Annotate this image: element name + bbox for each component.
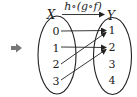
mapping-arrows (61, 31, 106, 81)
domain-set-label: X (46, 8, 56, 22)
mapping-arrow-2-to-1 (61, 33, 106, 65)
indicator-arrow-icon (11, 44, 22, 53)
codomain-element: 1 (109, 24, 116, 37)
domain-element: 0 (53, 25, 60, 38)
codomain-element: 3 (109, 58, 116, 71)
domain-element: 3 (53, 75, 60, 88)
mapping-arrow-1-to-2 (61, 47, 106, 48)
mapping-arrow-3-to-2 (61, 50, 106, 81)
composition-title: h∘(g∘f) (64, 0, 102, 13)
function-mapping-diagram: h∘(g∘f) X Y 0 1 2 3 1 2 3 4 (0, 0, 137, 97)
codomain-element: 2 (109, 41, 116, 54)
domain-element: 2 (53, 58, 60, 71)
domain-element: 1 (53, 42, 60, 55)
codomain-element: 4 (109, 74, 116, 87)
codomain-set-label: Y (107, 9, 116, 23)
mapping-arrow-0-to-1 (61, 31, 106, 32)
